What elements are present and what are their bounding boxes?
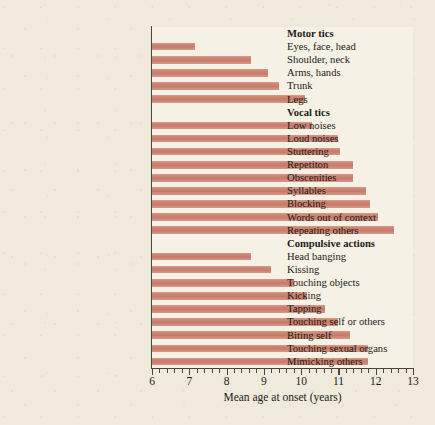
x-tick-minor [383,369,384,373]
bar [152,43,195,51]
x-tick-minor [391,369,392,373]
x-axis-title: Mean age at onset (years) [152,391,413,403]
x-tick-label: 11 [323,375,353,388]
x-tick-minor [249,369,250,373]
category-label: Mimicking others [248,356,435,367]
x-tick-label: 10 [286,375,316,388]
category-label: Kissing [248,264,435,275]
x-tick-label: 9 [249,375,279,388]
x-tick-minor [197,369,198,373]
category-label: Obscenities [248,172,435,183]
category-label: Repetiton [248,159,435,170]
x-tick-minor [346,369,347,373]
x-tick-minor [159,369,160,373]
category-label: Kicking [248,290,435,301]
x-tick-minor [331,369,332,373]
x-tick-label: 12 [361,375,391,388]
x-tick-label: 8 [212,375,242,388]
x-tick-minor [324,369,325,373]
category-label: Stuttering [248,146,435,157]
category-label: Touching objects [248,277,435,288]
category-label: Repeating others [248,225,435,236]
x-tick-minor [361,369,362,373]
x-tick-minor [212,369,213,373]
x-tick-minor [256,369,257,373]
category-label: Touching self or others [248,316,435,327]
bar-chart-figure: Motor ticsEyes, face, headShoulder, neck… [0,0,435,425]
category-label: Eyes, face, head [248,41,435,52]
x-tick-minor [271,369,272,373]
category-label: Tapping [248,303,435,314]
category-label: Trunk [248,80,435,91]
category-label: Touching sexual organs [248,343,435,354]
category-label: Arms, hands [248,67,435,78]
bar [152,56,251,64]
category-label: Loud noises [248,133,435,144]
category-label: Blocking [248,198,435,209]
group-heading: Compulsive actions [259,238,435,249]
category-label: Legs [248,94,435,105]
x-tick-minor [182,369,183,373]
category-label: Syllables [248,185,435,196]
group-heading: Motor tics [259,28,435,39]
x-tick-label: 7 [174,375,204,388]
x-tick-minor [406,369,407,373]
x-tick-minor [174,369,175,373]
category-label: Words out of context [248,212,435,223]
category-label: Shoulder, neck [248,54,435,65]
x-tick-minor [316,369,317,373]
category-label: Biting self [248,330,435,341]
x-tick-minor [368,369,369,373]
y-axis-line [151,26,152,369]
x-tick-label: 6 [137,375,167,388]
group-heading: Vocal tics [259,107,435,118]
x-tick-minor [309,369,310,373]
x-tick-minor [219,369,220,373]
x-tick-minor [234,369,235,373]
x-tick-minor [167,369,168,373]
x-tick-minor [398,369,399,373]
x-tick-label: 13 [398,375,428,388]
x-tick-minor [353,369,354,373]
category-label: Low noises [248,120,435,131]
category-label: Head banging [248,251,435,262]
x-tick-minor [241,369,242,373]
x-tick-minor [204,369,205,373]
x-tick-minor [279,369,280,373]
x-tick-minor [294,369,295,373]
bar [152,253,251,261]
x-tick-minor [286,369,287,373]
